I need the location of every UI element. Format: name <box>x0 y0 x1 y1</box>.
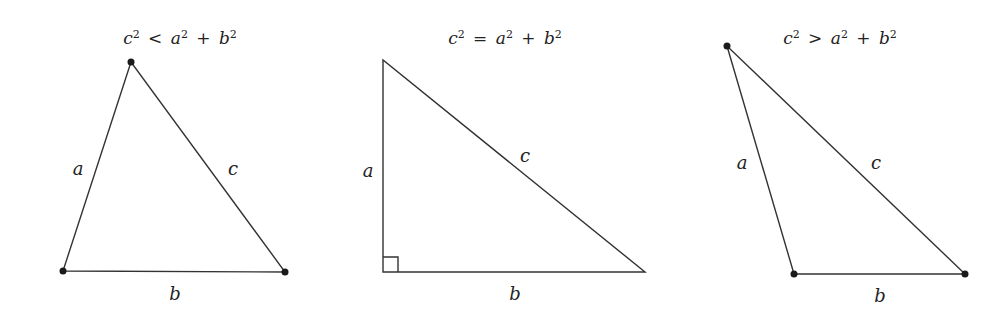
side-label-b: b <box>509 283 521 304</box>
acute-title: c2 < a2 + b2 <box>123 28 237 49</box>
vertex-dot <box>724 43 731 50</box>
acute-triangle-panel: c2 < a2 + b2 a c b <box>60 28 289 305</box>
triangle-comparison-diagram: c2 < a2 + b2 a c b c2 = a2 + b2 a c b c2 <box>0 0 1008 317</box>
vertex-dot <box>791 271 798 278</box>
obtuse-triangle-panel: c2 > a2 + b2 a c b <box>724 28 969 307</box>
vertex-dot <box>962 271 969 278</box>
vertex-dot <box>282 269 289 276</box>
vertex-dot <box>60 268 67 275</box>
right-triangle <box>383 60 645 272</box>
side-label-c: c <box>520 145 530 166</box>
side-label-b: b <box>169 283 181 304</box>
side-label-c: c <box>228 158 238 179</box>
side-label-c: c <box>871 152 881 173</box>
right-triangle-panel: c2 = a2 + b2 a c b <box>363 28 645 305</box>
side-label-a: a <box>73 158 84 179</box>
acute-triangle <box>63 62 285 272</box>
obtuse-title: c2 > a2 + b2 <box>783 28 897 49</box>
side-label-b: b <box>874 285 886 306</box>
side-label-a: a <box>737 152 748 173</box>
vertex-dot <box>128 59 135 66</box>
right-angle-marker <box>383 257 398 272</box>
obtuse-triangle <box>727 46 965 274</box>
right-title: c2 = a2 + b2 <box>448 28 562 49</box>
side-label-a: a <box>363 160 374 181</box>
